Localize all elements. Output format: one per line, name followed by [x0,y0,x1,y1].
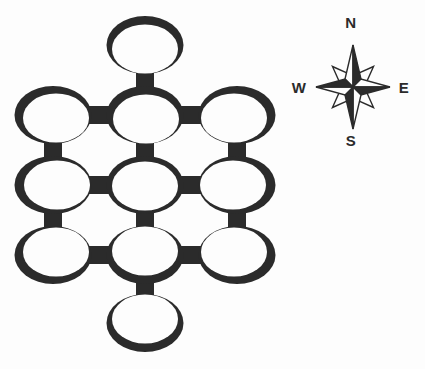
ring-inner-sw [23,228,89,277]
compass-label-north: N [345,14,356,31]
compass-label-west: W [292,79,307,96]
ring-inner-center [112,162,178,211]
ring-inner-ne [201,94,267,143]
ring-inner-top [112,25,178,74]
compass-label-south: S [346,132,357,149]
ring-inner-n [113,95,179,144]
ring-network-diagram [15,16,276,352]
ring-inner-s [112,227,178,276]
diagram-svg [0,0,425,369]
ring-inner-bottom [112,295,178,344]
compass-rose-icon [316,45,390,129]
ring-inner-w [24,161,90,210]
ring-inner-se [201,228,267,277]
compass-label-east: E [399,79,410,96]
ring-inner-nw [23,94,89,143]
compass-point-s-white [353,87,361,129]
scanned-diagram-page: N W E S [0,0,425,369]
ring-inner-e [200,161,266,210]
